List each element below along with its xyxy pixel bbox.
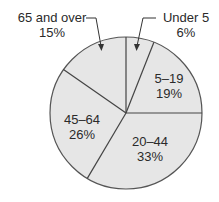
label-under5-value: 6%	[156, 25, 216, 40]
label-under5-name: Under 5	[156, 10, 216, 25]
label-65-name: 65 and over	[12, 10, 92, 25]
label-45-64-name: 45–64	[57, 112, 107, 127]
label-5-19-value: 19%	[144, 86, 194, 101]
label-5-19: 5–19 19%	[144, 71, 194, 101]
label-65-over: 65 and over 15%	[12, 10, 92, 40]
label-45-64: 45–64 26%	[57, 112, 107, 142]
label-5-19-name: 5–19	[144, 71, 194, 86]
label-45-64-value: 26%	[57, 127, 107, 142]
label-20-44-name: 20–44	[125, 134, 175, 149]
label-under5: Under 5 6%	[156, 10, 216, 40]
label-20-44: 20–44 33%	[125, 134, 175, 164]
label-65-value: 15%	[12, 25, 92, 40]
label-20-44-value: 33%	[125, 149, 175, 164]
